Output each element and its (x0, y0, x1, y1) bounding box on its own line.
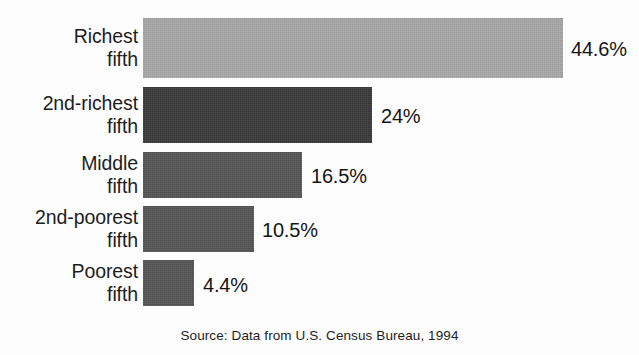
bar-track-2nd-richest-fifth (143, 87, 372, 143)
bar-row: Poorest fifth 4.4% (0, 260, 639, 306)
bar-2nd-richest-fifth (143, 87, 372, 143)
value-label-2nd-richest-fifth: 24% (381, 106, 420, 126)
bar-chart-figure: Richest fifth 44.6% 2nd-richest fifth 24… (0, 0, 639, 355)
bar-richest-fifth (143, 18, 563, 78)
bar-row: Richest fifth 44.6% (0, 18, 639, 78)
category-label-2nd-poorest-fifth: 2nd-poorest fifth (0, 206, 138, 252)
category-label-poorest-fifth: Poorest fifth (0, 260, 138, 306)
bar-row: 2nd-richest fifth 24% (0, 87, 639, 143)
bar-track-middle-fifth (143, 152, 302, 198)
bar-track-richest-fifth (143, 18, 563, 78)
bar-track-2nd-poorest-fifth (143, 206, 254, 252)
bar-track-poorest-fifth (143, 260, 194, 306)
bar-row: Middle fifth 16.5% (0, 152, 639, 198)
bar-middle-fifth (143, 152, 302, 198)
plot-area: Richest fifth 44.6% 2nd-richest fifth 24… (0, 0, 639, 315)
bar-2nd-poorest-fifth (143, 206, 254, 252)
category-label-middle-fifth: Middle fifth (0, 152, 138, 198)
value-label-poorest-fifth: 4.4% (203, 275, 248, 295)
source-caption: Source: Data from U.S. Census Bureau, 19… (0, 328, 639, 343)
bar-poorest-fifth (143, 260, 194, 306)
category-label-2nd-richest-fifth: 2nd-richest fifth (0, 92, 138, 138)
value-label-richest-fifth: 44.6% (571, 39, 627, 59)
category-label-richest-fifth: Richest fifth (0, 25, 138, 71)
bar-row: 2nd-poorest fifth 10.5% (0, 206, 639, 252)
value-label-middle-fifth: 16.5% (311, 166, 367, 186)
value-label-2nd-poorest-fifth: 10.5% (262, 220, 318, 240)
